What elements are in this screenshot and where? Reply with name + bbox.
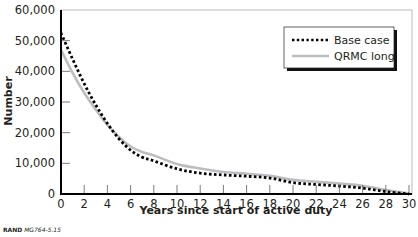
y-tick-label: 10,000 [15,156,55,170]
y-tick-label: 60,000 [15,3,55,17]
credit-org: RAND [3,226,22,233]
figure-credit: RAND MG764-5.15 [3,226,61,233]
y-tick-label: 50,000 [15,34,55,48]
x-tick-label: 26 [355,197,370,211]
y-axis-title: Number [2,76,15,126]
x-tick-label: 24 [332,197,347,211]
y-tick-label: 20,000 [15,126,55,140]
credit-code: MG764-5.15 [24,226,61,233]
legend-label-qrmc-long: QRMC long [334,50,395,63]
x-tick-label: 2 [81,197,88,211]
x-tick-label: 4 [104,197,111,211]
x-tick-label: 6 [127,197,134,211]
y-tick-label: 30,000 [15,95,55,109]
x-tick-label: 0 [57,197,64,211]
y-tick-label: 40,000 [15,64,55,78]
line-chart: Base case QRMC long 02468101214161820222… [0,0,418,237]
y-tick-label: 0 [48,187,55,201]
x-tick-label: 28 [378,197,393,211]
series-line-qrmc-long [61,50,409,194]
x-axis-title: Years since start of active duty [138,204,332,217]
legend-label-base-case: Base case [334,34,390,47]
x-tick-label: 30 [402,197,417,211]
